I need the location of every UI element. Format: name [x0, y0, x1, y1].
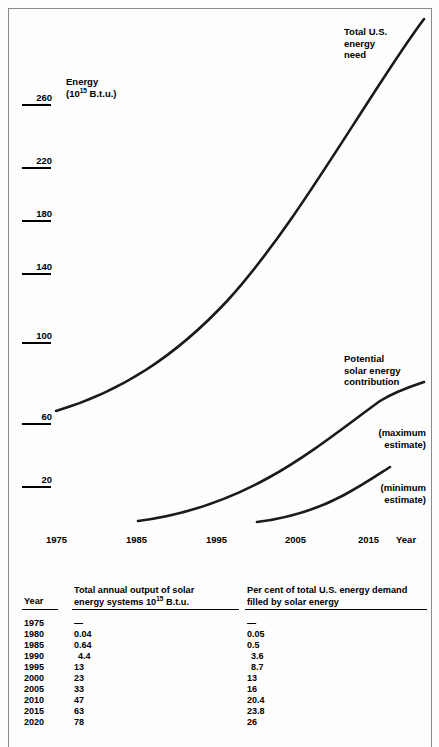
cell-year: 1985: [24, 640, 44, 650]
cell-percent: 3.6: [251, 651, 311, 661]
cell-percent: 13: [247, 673, 307, 683]
table-rule-percent: [245, 609, 427, 610]
cell-percent: —: [247, 618, 307, 628]
table-rule-output: [72, 609, 239, 610]
cell-output: 0.64: [74, 640, 134, 650]
y-tick-rule-220: [22, 167, 51, 169]
table-header-output-line2-prefix: energy systems 10: [74, 597, 156, 607]
y-axis-unit-exponent: 15: [80, 87, 87, 94]
cell-percent: 8.7: [251, 662, 311, 672]
cell-year: 1990: [24, 651, 44, 661]
table-rule-year: [22, 609, 58, 610]
figure-page: Energy (1015 B.t.u.) 260 220 180 140 100…: [0, 0, 439, 747]
y-tick-label-60: 60: [22, 411, 52, 422]
table-header-output-line2-suffix: B.t.u.: [163, 597, 189, 607]
cell-percent: 0.5: [247, 640, 307, 650]
cell-percent: 26: [247, 717, 307, 727]
y-tick-label-20: 20: [22, 474, 52, 485]
x-axis-title: Year: [396, 534, 416, 545]
cell-output: 47: [74, 695, 134, 705]
cell-year: 2010: [24, 695, 44, 705]
cell-year: 1975: [24, 618, 44, 628]
x-tick-label-2005: 2005: [285, 534, 306, 545]
x-tick-label-1995: 1995: [206, 534, 227, 545]
energy-projection-chart: Energy (1015 B.t.u.) 260 220 180 140 100…: [0, 0, 439, 560]
y-tick-rule-20: [22, 486, 51, 488]
cell-year: 2005: [24, 684, 44, 694]
cell-year: 1980: [24, 629, 44, 639]
y-axis-title: Energy (1015 B.t.u.): [66, 76, 117, 100]
annotation-total-line1: Total U.S.: [344, 26, 387, 37]
table-header-percent-line2: filled by solar energy: [247, 597, 339, 607]
cell-year: 2020: [24, 717, 44, 727]
y-axis-title-text: Energy: [66, 76, 98, 87]
cell-percent: 20.4: [247, 695, 307, 705]
annotation-max-line2: estimate): [384, 439, 426, 450]
y-tick-rule-140: [22, 273, 51, 275]
cell-output: 33: [74, 684, 134, 694]
y-tick-rule-60: [22, 423, 51, 425]
cell-percent: 16: [247, 684, 307, 694]
cell-percent: 23.8: [247, 706, 307, 716]
x-tick-label-1985: 1985: [126, 534, 147, 545]
annotation-potential-line3: contribution: [344, 376, 399, 387]
annotation-potential-line2: solar energy: [344, 365, 401, 376]
y-tick-rule-100: [22, 342, 51, 344]
y-tick-rule-180: [22, 220, 51, 222]
table-header-percent: Per cent of total U.S. energy demand fil…: [247, 584, 427, 608]
cell-output: 4.4: [78, 651, 138, 661]
cell-output: 63: [74, 706, 134, 716]
cell-percent: 0.05: [247, 629, 307, 639]
cell-output: —: [74, 618, 134, 628]
cell-output: 78: [74, 717, 134, 727]
cell-year: 2015: [24, 706, 44, 716]
annotation-minimum-estimate: (minimum estimate): [306, 482, 426, 505]
table-header-year: Year: [24, 596, 43, 606]
cell-output: 23: [74, 673, 134, 683]
annotation-potential-line1: Potential: [344, 353, 384, 364]
table-header-percent-line1: Per cent of total U.S. energy demand: [247, 585, 407, 595]
annotation-total-line2: energy: [344, 38, 375, 49]
y-axis-unit-prefix: (10: [66, 88, 80, 99]
table-header-output: Total annual output of solar energy syst…: [74, 584, 239, 608]
y-tick-label-260: 260: [22, 92, 52, 103]
cell-output: 13: [74, 662, 134, 672]
cell-year: 2000: [24, 673, 44, 683]
table-header-output-line1: Total annual output of solar: [74, 585, 194, 595]
x-tick-label-2015: 2015: [358, 534, 379, 545]
x-tick-label-1975: 1975: [46, 534, 67, 545]
y-tick-label-180: 180: [22, 208, 52, 219]
annotation-maximum-estimate: (maximum estimate): [306, 427, 426, 450]
annotation-min-line1: (minimum: [381, 482, 426, 493]
annotation-total-us-energy-need: Total U.S. energy need: [344, 26, 387, 61]
annotation-potential-solar: Potential solar energy contribution: [344, 353, 401, 388]
annotation-max-line1: (maximum: [378, 427, 426, 438]
y-axis-unit-suffix: B.t.u.): [87, 88, 117, 99]
y-tick-label-220: 220: [22, 155, 52, 166]
cell-output: 0.04: [74, 629, 134, 639]
y-tick-label-140: 140: [22, 261, 52, 272]
y-tick-rule-260: [22, 104, 51, 106]
annotation-min-line2: estimate): [384, 494, 426, 505]
cell-year: 1995: [24, 662, 44, 672]
y-tick-label-100: 100: [22, 330, 52, 341]
annotation-total-line3: need: [344, 49, 366, 60]
